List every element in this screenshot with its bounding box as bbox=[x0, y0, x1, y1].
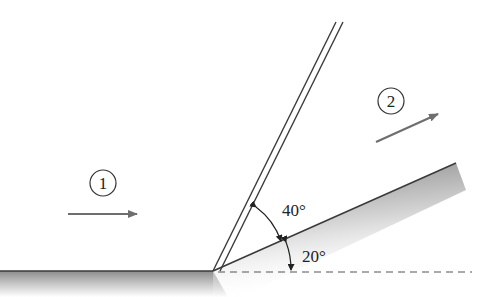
wave-angle-arc bbox=[256, 207, 281, 241]
region-2-marker: 2 bbox=[378, 88, 404, 114]
region-2-label: 2 bbox=[387, 92, 396, 111]
region-1-label: 1 bbox=[99, 174, 108, 193]
oblique-shock-diagram: 40° 20° 1 2 bbox=[0, 0, 488, 297]
region-1-marker: 1 bbox=[90, 170, 116, 196]
upstream-wall bbox=[0, 271, 228, 297]
wave-angle-label: 40° bbox=[282, 201, 306, 220]
wedge-angle-label: 20° bbox=[302, 247, 326, 266]
wedge-ramp bbox=[213, 163, 466, 297]
flow-arrow-region-2 bbox=[376, 114, 438, 142]
